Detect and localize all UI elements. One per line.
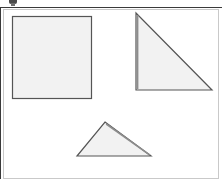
- shapes-svg: [0, 0, 222, 182]
- right-triangle-shape[interactable]: [136, 13, 212, 90]
- shape-right-triangle-group: [136, 13, 212, 90]
- shape-layer: [0, 0, 222, 182]
- shapes-canvas-app: [0, 0, 222, 182]
- square-shape[interactable]: [13, 17, 92, 99]
- shape-square-group: [13, 17, 92, 99]
- shape-isosceles-triangle-group: [77, 122, 151, 156]
- isosceles-triangle-shape[interactable]: [77, 122, 151, 156]
